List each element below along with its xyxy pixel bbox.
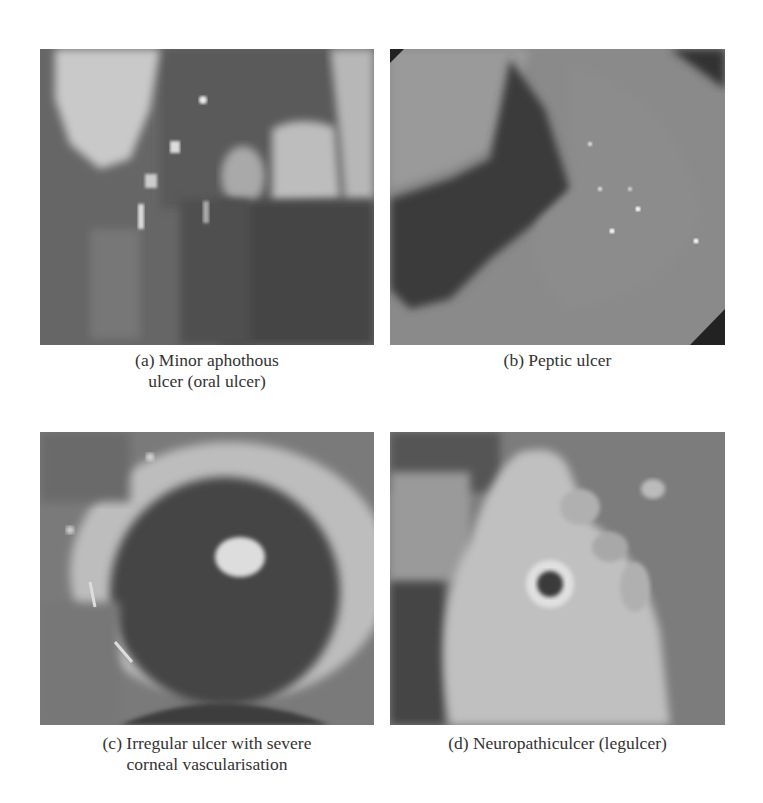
photo-corneal-ulcer — [40, 432, 374, 725]
oral-ulcer-image — [40, 49, 374, 345]
caption-d-line1: (d) Neuropathiculcer (legulcer) — [390, 733, 725, 754]
caption-c-line1: (c) Irregular ulcer with severe — [40, 733, 374, 754]
caption-b-line1: (b) Peptic ulcer — [390, 350, 725, 371]
peptic-ulcer-image — [390, 49, 725, 345]
caption-b: (b) Peptic ulcer — [390, 350, 725, 371]
corneal-ulcer-image — [40, 432, 374, 725]
caption-a-line1: (a) Minor aphothous — [40, 350, 374, 371]
caption-a: (a) Minor aphothous ulcer (oral ulcer) — [40, 350, 374, 392]
photo-neuropathic-ulcer — [390, 432, 725, 725]
photo-oral-ulcer — [40, 49, 374, 345]
caption-d: (d) Neuropathiculcer (legulcer) — [390, 733, 725, 754]
caption-c-line2: corneal vascularisation — [40, 754, 374, 775]
photo-peptic-ulcer — [390, 49, 725, 345]
caption-a-line2: ulcer (oral ulcer) — [40, 371, 374, 392]
neuropathic-ulcer-image — [390, 432, 725, 725]
caption-c: (c) Irregular ulcer with severe corneal … — [40, 733, 374, 775]
